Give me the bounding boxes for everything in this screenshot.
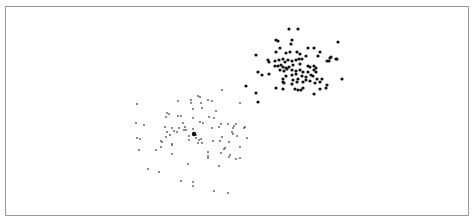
data-point bbox=[287, 27, 290, 30]
data-point bbox=[169, 134, 171, 136]
data-point bbox=[301, 70, 304, 73]
data-point bbox=[192, 181, 194, 183]
data-point bbox=[219, 140, 221, 142]
data-point bbox=[274, 50, 277, 53]
data-point bbox=[298, 52, 301, 55]
data-point bbox=[228, 141, 230, 143]
data-point bbox=[298, 68, 301, 71]
data-point bbox=[296, 27, 299, 30]
data-point bbox=[171, 153, 173, 155]
data-point bbox=[296, 88, 299, 91]
data-point bbox=[315, 77, 318, 80]
data-point bbox=[207, 155, 209, 157]
data-point bbox=[173, 130, 175, 132]
data-point bbox=[294, 58, 297, 61]
data-point bbox=[184, 126, 186, 128]
data-point bbox=[300, 74, 303, 77]
scatter-chart bbox=[0, 0, 473, 220]
data-point bbox=[294, 72, 297, 75]
data-point bbox=[306, 46, 309, 49]
data-point bbox=[304, 75, 307, 78]
data-point bbox=[290, 38, 293, 41]
data-point bbox=[295, 80, 298, 83]
data-point bbox=[239, 157, 241, 159]
data-point bbox=[208, 116, 210, 118]
data-point bbox=[188, 139, 190, 141]
data-point bbox=[254, 53, 257, 56]
data-point bbox=[135, 122, 137, 124]
data-point bbox=[260, 73, 263, 76]
data-point bbox=[239, 102, 241, 104]
data-point bbox=[178, 127, 180, 129]
data-point bbox=[232, 133, 234, 135]
data-point bbox=[308, 65, 311, 68]
data-point bbox=[211, 127, 213, 129]
data-point bbox=[143, 124, 145, 126]
data-point bbox=[281, 65, 284, 68]
data-point bbox=[213, 117, 215, 119]
data-point bbox=[312, 46, 315, 49]
data-point bbox=[221, 89, 223, 91]
data-point bbox=[327, 59, 330, 62]
data-point bbox=[277, 58, 280, 61]
data-point bbox=[223, 148, 225, 150]
data-point bbox=[304, 78, 307, 81]
data-point bbox=[286, 58, 289, 61]
data-point bbox=[244, 84, 247, 87]
data-point bbox=[278, 68, 281, 71]
data-point bbox=[192, 185, 194, 187]
data-point bbox=[176, 131, 178, 133]
data-point bbox=[290, 59, 293, 62]
data-point bbox=[183, 129, 185, 131]
data-point bbox=[192, 128, 194, 130]
data-point bbox=[199, 96, 201, 98]
data-point bbox=[147, 168, 149, 170]
data-point bbox=[187, 163, 189, 165]
data-point bbox=[316, 54, 319, 57]
data-point bbox=[188, 135, 190, 137]
data-point bbox=[165, 136, 167, 138]
data-point bbox=[202, 122, 204, 124]
data-point bbox=[228, 156, 230, 158]
data-point bbox=[267, 60, 270, 63]
data-point bbox=[211, 100, 213, 102]
data-point bbox=[177, 100, 179, 102]
data-point bbox=[273, 59, 276, 62]
data-point bbox=[192, 108, 194, 110]
data-point bbox=[335, 57, 338, 60]
data-point bbox=[177, 115, 179, 117]
data-point bbox=[136, 137, 138, 139]
data-point bbox=[288, 50, 291, 53]
data-point bbox=[278, 46, 281, 49]
data-point bbox=[160, 146, 162, 148]
data-point bbox=[212, 140, 214, 142]
data-point bbox=[282, 69, 285, 72]
data-point bbox=[246, 137, 248, 139]
data-point bbox=[190, 99, 192, 101]
data-point bbox=[227, 123, 229, 125]
data-point bbox=[201, 142, 203, 144]
data-point bbox=[284, 74, 287, 77]
data-point bbox=[283, 60, 286, 63]
data-point bbox=[290, 73, 293, 76]
data-point bbox=[201, 107, 203, 109]
data-point bbox=[199, 121, 201, 123]
data-point bbox=[273, 64, 276, 67]
data-point bbox=[197, 95, 199, 97]
data-point bbox=[340, 77, 343, 80]
data-point bbox=[313, 81, 316, 84]
data-point bbox=[200, 138, 202, 140]
data-point bbox=[290, 82, 293, 85]
data-point bbox=[166, 112, 168, 114]
data-point bbox=[221, 136, 223, 138]
data-point bbox=[281, 77, 284, 80]
data-point bbox=[267, 72, 270, 75]
data-point bbox=[136, 103, 138, 105]
data-point bbox=[138, 149, 140, 151]
data-point bbox=[207, 157, 209, 159]
data-point bbox=[231, 131, 233, 133]
data-point bbox=[233, 125, 235, 127]
data-point bbox=[274, 86, 277, 89]
data-point bbox=[281, 87, 284, 90]
data-point bbox=[232, 127, 234, 129]
